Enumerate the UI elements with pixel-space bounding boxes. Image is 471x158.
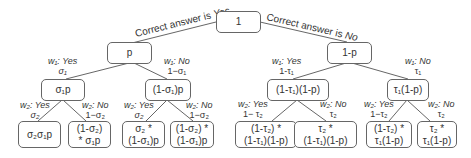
leaf-5: (1-τ₂) *(1-τ₁)(1-p): [235, 121, 297, 148]
edge-label-w2-yes-1: w₂: Yes σ₂: [20, 100, 50, 120]
leaf-7: (1-τ₂) *τ₁(1-p): [366, 121, 412, 148]
leaf-4: (1-σ₂) *(1-σ₁)p: [170, 121, 214, 148]
node-1-minus-tau1-1-minus-p: (1-τ₁)(1-p): [267, 79, 329, 101]
edge-label-w1-no-left: w₁: No 1−σ₁: [164, 56, 190, 76]
edge-label-w2-no-2: w₂: No 1−σ₂: [186, 100, 212, 120]
leaf-2: (1-σ₂)* σ₁p: [68, 121, 111, 148]
leaf-6: τ₂ *(1-τ₁)(1-p): [294, 121, 357, 148]
root-node: 1: [216, 11, 261, 33]
node-1-minus-p: 1-p: [327, 42, 372, 64]
edge-label-w2-no-1: w₂: No 1−σ₂: [82, 100, 108, 120]
leaf-1: σ₂σ₁p: [18, 121, 61, 148]
leaf-3: σ₂ *(1-σ₁)p: [122, 121, 165, 148]
edge-label-w2-no-3: w₂: No τ₂: [320, 99, 346, 119]
edge-label-w2-yes-2: w₂: Yes σ₂: [124, 100, 154, 120]
node-1-minus-p-label: 1-p: [342, 47, 356, 59]
node-sigma1-p: σ₁p: [41, 79, 85, 101]
edge-label-w1-no-right: w₁: No τ₁: [405, 56, 431, 76]
edge-label-correct-no: Correct answer is No: [266, 11, 360, 43]
root-label: 1: [236, 16, 242, 28]
edge-label-w2-no-4: w₂: No τ₂: [428, 99, 454, 119]
edge-label-w2-yes-3: w₂: Yes 1− τ₂: [238, 99, 268, 119]
node-p-label: p: [127, 47, 133, 59]
leaf-8: τ₂ *τ₁(1-p): [417, 121, 457, 148]
node-tau1-1-minus-p: τ₁(1-p): [387, 79, 429, 101]
node-p: p: [107, 42, 152, 64]
edge-label-w1-yes-right: w₁: Yes 1-τ₁: [272, 56, 301, 76]
edge-label-w1-yes-left: w₁: Yes σ₁: [48, 56, 77, 76]
edge-label-w2-yes-4: w₂: Yes 1−τ₂: [364, 99, 394, 119]
node-1-minus-sigma1-p: (1-σ₁)p: [145, 79, 191, 101]
